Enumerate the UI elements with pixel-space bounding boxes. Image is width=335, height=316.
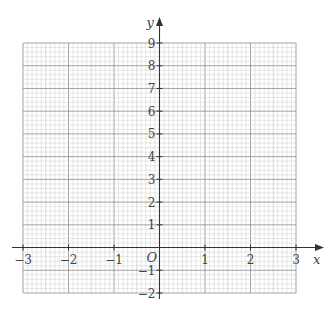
y-tick-label: 9: [148, 37, 156, 51]
y-tick-label: −2: [138, 287, 156, 301]
y-tick-label: −1: [138, 264, 156, 278]
x-axis-label: x: [313, 252, 321, 267]
x-tick-label: 1: [201, 253, 209, 267]
y-tick-label: 5: [148, 127, 156, 141]
x-tick-label: −2: [60, 253, 78, 267]
y-tick-label: 4: [148, 150, 156, 164]
x-tick-label: −1: [105, 253, 123, 267]
y-axis-label: y: [146, 15, 155, 30]
y-axis-arrow-icon: [156, 17, 163, 26]
coordinate-grid: xyO−3−2−1123−2−1123456789: [0, 0, 335, 316]
x-tick-label: −3: [14, 253, 32, 267]
origin-label: O: [147, 250, 158, 265]
x-axis-arrow-icon: [315, 244, 324, 251]
y-tick-label: 1: [148, 218, 156, 232]
y-tick-label: 6: [148, 105, 156, 119]
y-tick-label: 3: [148, 173, 156, 187]
x-tick-label: 2: [247, 253, 255, 267]
y-tick-label: 7: [148, 82, 156, 96]
x-tick-label: 3: [292, 253, 300, 267]
y-tick-label: 2: [148, 196, 156, 210]
y-tick-label: 8: [148, 59, 156, 73]
